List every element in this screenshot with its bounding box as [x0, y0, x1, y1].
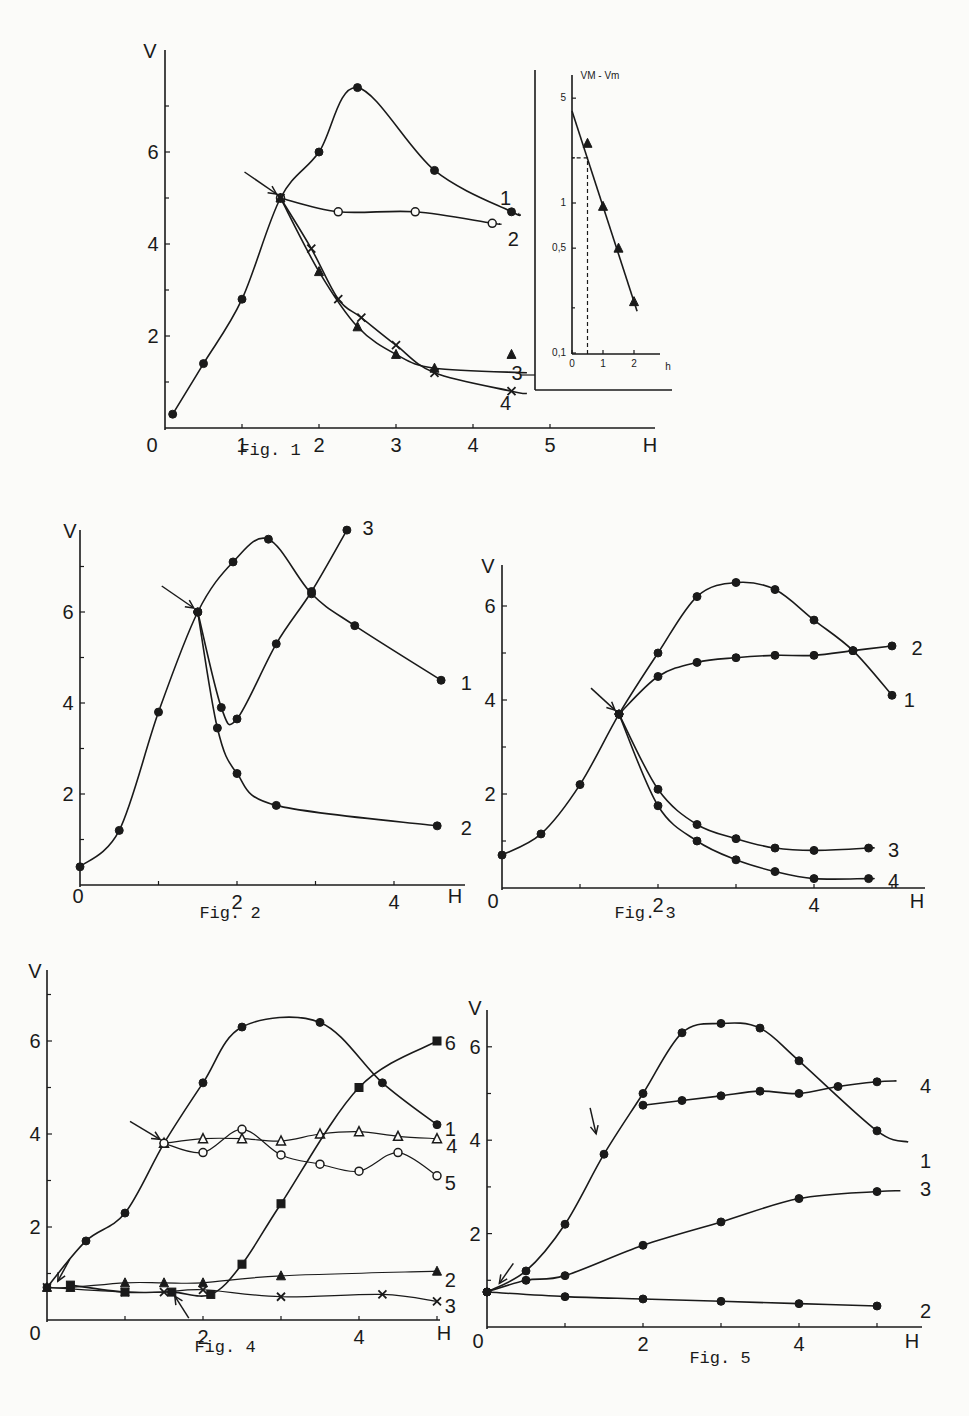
series-line: [619, 714, 874, 850]
y-tick-label: 4: [469, 1129, 480, 1151]
y-tick-label: 2: [484, 783, 495, 805]
series-1: 1: [76, 535, 472, 871]
y-tick-label: 2: [62, 783, 73, 805]
series-label: 4: [920, 1075, 931, 1097]
y-axis-label: V: [481, 555, 495, 577]
data-point-filled-square: [121, 1288, 129, 1296]
data-point-filled-circle: [771, 868, 779, 876]
series-label: 2: [920, 1300, 931, 1322]
series-line: [281, 198, 501, 224]
data-point-filled-circle: [315, 148, 323, 156]
data-point-filled-circle: [810, 651, 818, 659]
data-point-open-circle: [394, 1149, 402, 1157]
data-point-filled-square: [433, 1037, 441, 1045]
x-tick-label: 2: [637, 1333, 648, 1355]
figure-caption: Fig. 3: [614, 904, 675, 923]
x-tick-label: 4: [793, 1333, 804, 1355]
inset-x-label: h: [665, 361, 671, 372]
series-label: 1: [904, 689, 915, 711]
data-point-filled-circle: [155, 708, 163, 716]
data-point-filled-circle: [771, 651, 779, 659]
data-point-cross: [392, 341, 400, 349]
data-point-filled-circle: [693, 658, 701, 666]
series-line: [173, 87, 520, 414]
series-label: 3: [512, 362, 523, 384]
origin-label: 0: [487, 890, 498, 912]
x-axis-label: H: [910, 890, 924, 912]
data-point-filled-circle: [76, 863, 84, 871]
data-point-open-circle: [160, 1139, 168, 1147]
series-1: 1: [483, 1019, 931, 1296]
data-point-filled-circle: [732, 856, 740, 864]
data-point-filled-circle: [795, 1090, 803, 1098]
x-tick-label: 2: [313, 434, 324, 456]
data-point-filled-circle: [351, 622, 359, 630]
data-point-filled-circle: [576, 781, 584, 789]
data-point-filled-circle: [194, 608, 202, 616]
series-line: [47, 1271, 437, 1288]
annotation-arrow: [175, 1296, 189, 1318]
data-point-filled-circle: [272, 801, 280, 809]
series-label: 4: [888, 870, 899, 892]
series-line: [487, 1292, 877, 1306]
series-line: [487, 1023, 908, 1292]
series-1: 1: [498, 579, 915, 860]
data-point-filled-circle: [717, 1297, 725, 1305]
series-line: [487, 1191, 900, 1292]
data-point-filled-circle: [771, 586, 779, 594]
inset-y-tick-label: 0,1: [552, 347, 566, 358]
data-point-filled-circle: [756, 1087, 764, 1095]
data-point-filled-circle: [810, 875, 818, 883]
data-point-filled-square: [238, 1260, 246, 1268]
y-axis-label: V: [28, 960, 42, 982]
origin-label: 0: [72, 885, 83, 907]
figure-page: 246123450HVFig. 11234VM - Vmh510,50,1012…: [0, 0, 969, 1416]
inset-y-tick-label: 1: [560, 197, 566, 208]
y-tick-label: 6: [62, 601, 73, 623]
data-point-cross: [357, 314, 365, 322]
data-point-filled-circle: [810, 846, 818, 854]
series-line: [502, 582, 892, 855]
data-point-filled-circle: [433, 1121, 441, 1129]
data-point-filled-circle: [873, 1302, 881, 1310]
y-tick-label: 6: [147, 141, 158, 163]
data-point-filled-circle: [264, 535, 272, 543]
x-axis-label: H: [448, 885, 462, 907]
data-point-filled-circle: [522, 1276, 530, 1284]
x-tick-label: 4: [467, 434, 478, 456]
data-point-filled-circle: [522, 1267, 530, 1275]
y-tick-label: 4: [29, 1123, 40, 1145]
inset-y-tick-label: 0,5: [552, 242, 566, 253]
data-point-filled-circle: [561, 1293, 569, 1301]
series-line: [80, 538, 441, 867]
data-point-filled-circle: [121, 1209, 129, 1217]
inset-guide-dashed: [572, 158, 588, 354]
y-axis-label: V: [468, 997, 482, 1019]
data-point-filled-circle: [693, 593, 701, 601]
origin-label: 0: [29, 1322, 40, 1344]
data-point-filled-circle: [233, 715, 241, 723]
data-point-open-circle: [334, 208, 342, 216]
data-point-filled-circle: [498, 851, 506, 859]
y-tick-label: 4: [62, 692, 73, 714]
annotation-arrow: [162, 586, 194, 608]
data-point-filled-circle: [169, 410, 177, 418]
y-tick-label: 2: [29, 1216, 40, 1238]
data-point-filled-circle: [795, 1057, 803, 1065]
y-tick-label: 2: [147, 325, 158, 347]
data-point-filled-circle: [537, 830, 545, 838]
data-point-filled-circle: [693, 837, 701, 845]
annotation-arrow: [245, 172, 277, 194]
data-point-filled-circle: [615, 710, 623, 718]
inset-fit-line: [572, 111, 637, 311]
data-point-filled-circle: [732, 654, 740, 662]
data-point-filled-circle: [654, 649, 662, 657]
series-label: 1: [500, 187, 511, 209]
data-point-filled-triangle: [507, 349, 516, 358]
data-point-filled-square: [66, 1281, 74, 1289]
series-6: 6: [66, 1032, 456, 1298]
x-axis-label: H: [905, 1330, 919, 1352]
data-point-filled-circle: [115, 826, 123, 834]
data-point-filled-circle: [238, 1023, 246, 1031]
data-point-filled-circle: [654, 802, 662, 810]
